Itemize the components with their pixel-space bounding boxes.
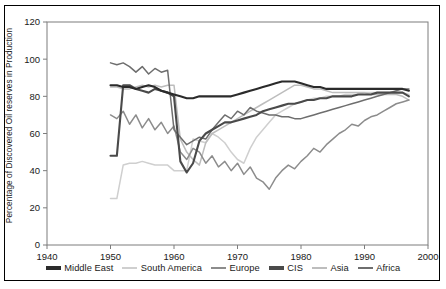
legend-item-africa[interactable]: Africa <box>358 263 401 273</box>
legend-swatch-icon <box>312 267 327 270</box>
legend-item-asia[interactable]: Asia <box>312 263 349 273</box>
legend-swatch-icon <box>46 266 61 269</box>
legend-item-cis[interactable]: CIS <box>269 263 303 273</box>
chart-plot-area: 0204060801001201940195019601970198019902… <box>0 0 446 289</box>
plot-box-border <box>47 22 428 245</box>
y-tick-label: 60 <box>29 128 40 139</box>
legend-item-middle-east[interactable]: Middle East <box>46 263 114 273</box>
legend-label: Asia <box>330 263 348 273</box>
y-tick-label: 100 <box>24 54 40 65</box>
legend-label: South America <box>141 263 202 273</box>
legend-label: Africa <box>376 263 400 273</box>
series-line-south-america <box>111 93 409 199</box>
y-tick-label: 120 <box>24 16 40 27</box>
legend-label: Middle East <box>64 263 113 273</box>
legend-swatch-icon <box>269 266 284 269</box>
y-tick-label: 20 <box>29 202 40 213</box>
series-line-asia <box>111 85 409 165</box>
legend-item-south-america[interactable]: South America <box>122 263 202 273</box>
legend-swatch-icon <box>122 267 137 270</box>
chart-legend: Middle EastSouth AmericaEuropeCISAsiaAfr… <box>0 260 446 276</box>
legend-swatch-icon <box>358 267 373 270</box>
y-tick-label: 80 <box>29 91 40 102</box>
y-tick-label: 0 <box>35 239 40 250</box>
y-tick-label: 40 <box>29 165 40 176</box>
legend-label: Europe <box>229 263 259 273</box>
legend-label: CIS <box>287 263 303 273</box>
legend-swatch-icon <box>211 267 226 270</box>
line-chart-svg: 0204060801001201940195019601970198019902… <box>0 0 446 289</box>
series-group <box>111 63 409 199</box>
legend-item-europe[interactable]: Europe <box>211 263 260 273</box>
